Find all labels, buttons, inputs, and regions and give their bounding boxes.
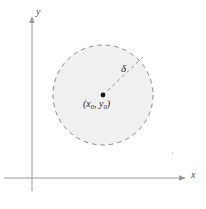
x-axis-arrowhead — [179, 175, 186, 181]
y-axis-label: y — [36, 7, 40, 17]
center-label-open: (x — [83, 98, 91, 109]
center-label-subscript-y: 0 — [103, 103, 106, 110]
center-point-dot — [101, 93, 106, 98]
delta-radius-label: δ — [121, 63, 126, 74]
center-label-close: ) — [107, 98, 110, 109]
center-point-label: (x0, y0) — [83, 99, 110, 109]
x-axis-label: x — [191, 170, 195, 180]
scan-artifact-speck — [172, 152, 173, 154]
y-axis-arrowhead — [29, 16, 35, 23]
figure-canvas: y x δ (x0, y0) — [0, 0, 206, 209]
center-label-subscript-x: 0 — [91, 103, 94, 110]
